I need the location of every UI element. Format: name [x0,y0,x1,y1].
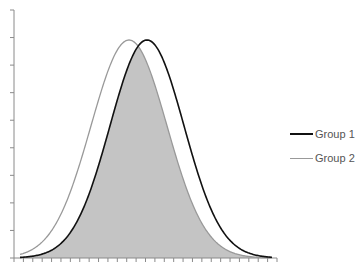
x-axis-ticks [14,258,277,262]
legend-item-group-2: Group 2 [290,152,355,164]
legend-label-group-1: Group 1 [315,128,355,140]
legend-label-group-2: Group 2 [315,152,355,164]
y-axis-ticks [10,10,14,258]
group-2-line-swatch [290,158,313,159]
legend-item-group-1: Group 1 [290,128,355,140]
group-1-line-swatch [290,133,313,135]
overlap-area [20,46,272,258]
